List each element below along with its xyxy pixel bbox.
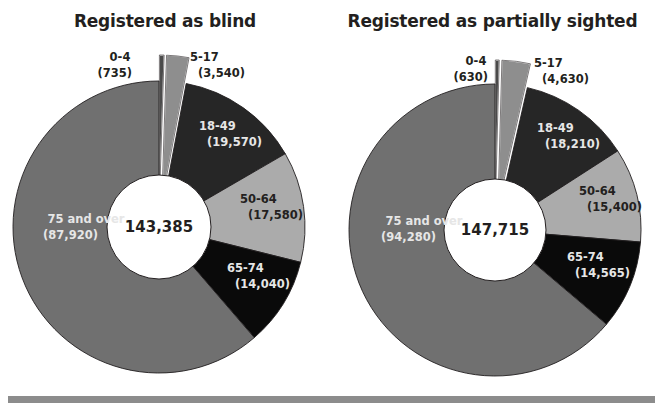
- bottom-divider-band: [8, 396, 655, 403]
- slice-label-0-4: 0-4(735): [97, 50, 132, 80]
- donut-chart-blind: 143,3850-4(735)5-17(3,540)18-49(19,570)5…: [13, 50, 305, 373]
- slice-label-0-4: 0-4(630): [453, 54, 488, 84]
- donut-center-total: 147,715: [461, 221, 529, 239]
- slice-label-5-17: 5-17(3,540): [190, 50, 245, 80]
- donut-charts: 143,3850-4(735)5-17(3,540)18-49(19,570)5…: [0, 0, 655, 403]
- slice-label-5-17: 5-17(4,630): [534, 56, 589, 86]
- donut-chart-partially-sighted: 147,7150-4(630)5-17(4,630)18-49(18,210)5…: [349, 54, 642, 376]
- donut-center-total: 143,385: [125, 218, 193, 236]
